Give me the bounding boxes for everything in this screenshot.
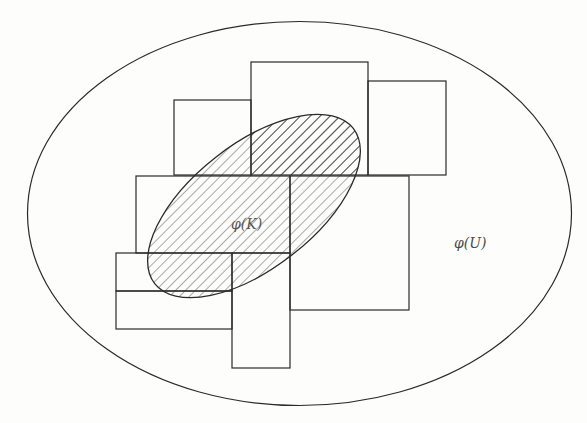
outer-set-label: φ(U) bbox=[454, 236, 487, 250]
inner-set-label: φ(K) bbox=[231, 217, 262, 231]
diagram-canvas bbox=[0, 0, 587, 423]
rect-top-right bbox=[368, 81, 446, 175]
rect-bottom-left-lower bbox=[116, 291, 232, 329]
